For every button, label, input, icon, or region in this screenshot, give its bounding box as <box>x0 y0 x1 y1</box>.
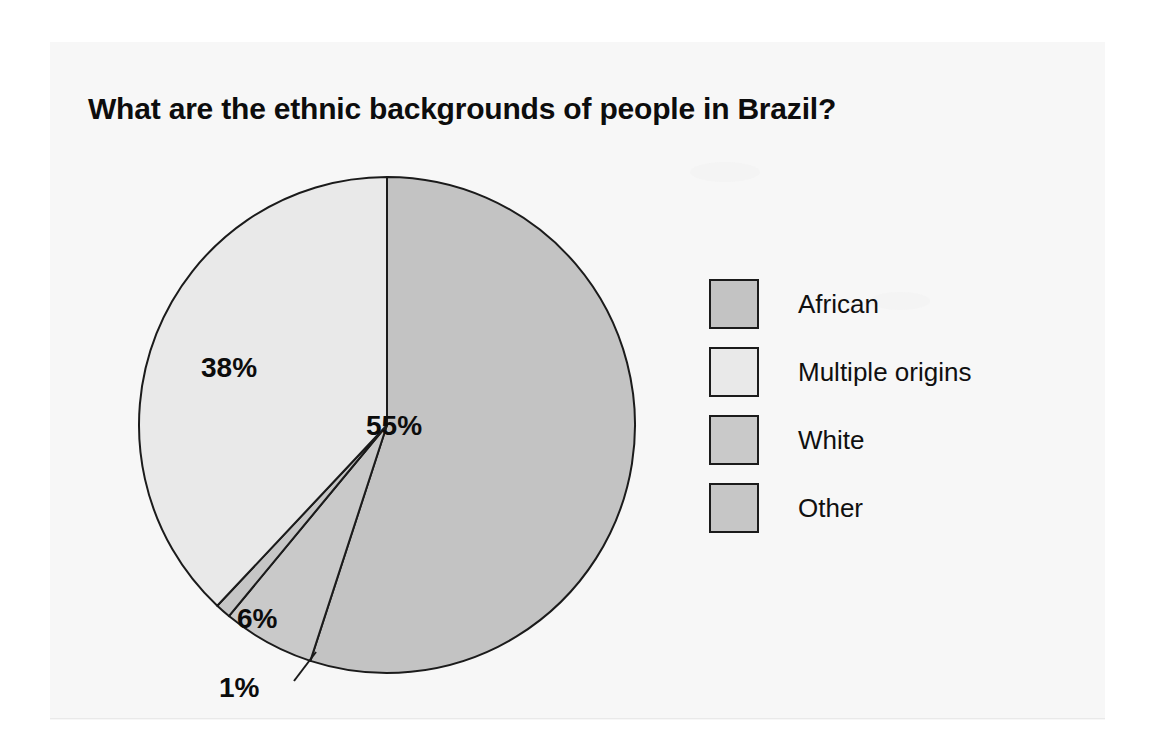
legend-label: African <box>798 289 879 320</box>
chart-screenshot: What are the ethnic backgrounds of peopl… <box>0 0 1159 756</box>
legend-label: Multiple origins <box>798 357 971 388</box>
page-title: What are the ethnic backgrounds of peopl… <box>88 92 836 126</box>
legend-label: Other <box>798 493 863 524</box>
legend-item-multiple-origins[interactable]: Multiple origins <box>709 347 1049 397</box>
legend-label: White <box>798 425 864 456</box>
pie-slice-label-other: 1% <box>219 672 259 704</box>
pie-slice-label-white: 6% <box>237 603 277 635</box>
legend-swatch-icon <box>709 415 759 465</box>
legend-item-other[interactable]: Other <box>709 483 1049 533</box>
legend-item-white[interactable]: White <box>709 415 1049 465</box>
legend-swatch-icon <box>709 483 759 533</box>
paper-texture-blotch <box>690 162 760 182</box>
legend-swatch-icon <box>709 347 759 397</box>
legend-swatch-icon <box>709 279 759 329</box>
pie-slice-label-multiple-origins: 38% <box>201 352 257 384</box>
legend: African Multiple origins White Other <box>709 279 1049 551</box>
pie-slice-label-african: 55% <box>366 410 422 442</box>
legend-item-african[interactable]: African <box>709 279 1049 329</box>
